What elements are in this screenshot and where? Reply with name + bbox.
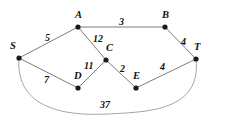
edge-weight-e-t: 4 [160,62,165,72]
node-label-a: A [75,10,82,21]
edge-weight-s-t: 37 [100,100,110,110]
edge-weight-a-b: 3 [119,17,124,27]
node-d [75,85,80,90]
node-a [75,24,80,29]
node-s [16,55,21,60]
node-label-b: B [162,10,169,21]
node-label-d: D [74,71,82,82]
edge-weight-s-d: 7 [44,75,49,85]
node-c [103,57,108,62]
node-e [133,85,138,90]
edge-weight-b-t: 4 [181,37,186,47]
edge-weight-c-d: 11 [84,61,93,71]
node-label-t: T [194,42,200,53]
edge-e-t [136,59,196,88]
graph-svg [0,0,228,125]
edge-weight-c-e: 2 [120,64,125,74]
node-t [193,56,198,61]
node-label-c: C [106,43,113,54]
node-b [162,24,167,29]
edge-weight-s-a: 5 [45,33,50,43]
node-label-e: E [133,71,140,82]
node-label-s: S [10,41,16,52]
diagram-canvas: SABCDET534121124737 © Cengage Learning 2… [0,0,228,125]
edge-weight-a-c: 12 [93,34,103,44]
